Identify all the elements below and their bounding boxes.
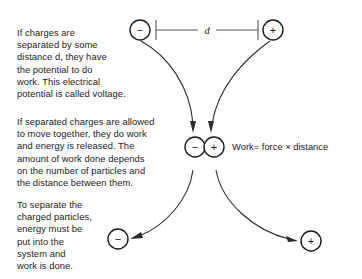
- arrow-positive-moves-in: [208, 41, 270, 133]
- charge-top-positive-label: +: [270, 24, 276, 36]
- charge-pair-negative-label: −: [192, 141, 198, 153]
- arrowhead-negative-moves-in: [190, 121, 196, 133]
- charge-bottom-positive: +: [301, 231, 321, 251]
- work-equation-label: Work= force × distance: [232, 141, 328, 153]
- arrow-separate-positive: [216, 170, 298, 242]
- charge-pair-positive-label: +: [211, 141, 217, 153]
- arrowhead-positive-moves-in: [208, 121, 214, 133]
- diagram-canvas: d − + − +: [0, 0, 362, 279]
- charge-bottom-positive-label: +: [308, 235, 314, 247]
- distance-label: d: [204, 25, 210, 36]
- arrowhead-separate-positive: [286, 236, 298, 242]
- paragraph-separate-charges: To separate the charged particles, energ…: [17, 199, 127, 272]
- paragraph-energy-released: If separated charges are allowed to move…: [17, 116, 177, 189]
- arrowhead-separate-negative: [130, 232, 143, 239]
- charge-pair-joined: − +: [185, 137, 224, 157]
- charge-top-positive: +: [263, 20, 283, 40]
- paragraph-voltage: If charges are separated by some distanc…: [17, 27, 152, 100]
- distance-dimension-line: d: [156, 20, 258, 40]
